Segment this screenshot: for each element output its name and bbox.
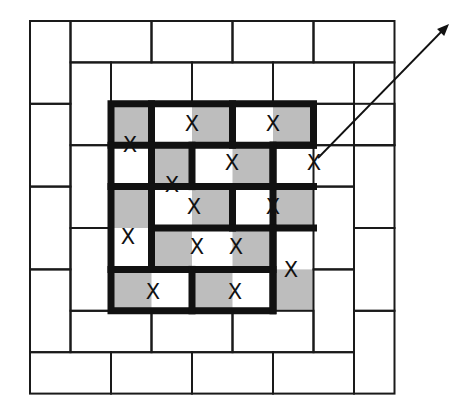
arrow-icon	[318, 24, 449, 158]
domino	[111, 62, 192, 103]
domino	[354, 311, 395, 394]
domino	[314, 269, 355, 352]
x-mark: X	[185, 112, 199, 136]
shaded-cell	[111, 187, 152, 228]
x-mark: X	[190, 235, 204, 259]
domino	[71, 21, 152, 62]
domino	[314, 187, 355, 270]
x-mark: X	[146, 280, 160, 304]
x-mark: X	[266, 195, 280, 219]
domino	[30, 104, 71, 187]
x-mark: X	[187, 195, 201, 219]
x-mark: X	[225, 151, 239, 175]
domino	[152, 311, 233, 352]
domino	[273, 352, 354, 393]
domino	[111, 352, 192, 393]
shaded-cell	[192, 269, 233, 310]
domino	[71, 62, 112, 145]
domino	[71, 311, 152, 352]
domino	[30, 269, 71, 352]
domino	[192, 352, 273, 393]
domino	[233, 311, 314, 352]
domino	[30, 187, 71, 270]
domino-diagram: XXXXXXXXXXXXXX	[0, 0, 469, 409]
x-mark: X	[165, 173, 179, 197]
x-mark: X	[284, 258, 298, 282]
domino	[354, 228, 395, 311]
x-mark: X	[307, 151, 321, 175]
domino	[30, 352, 111, 393]
arrow-line	[318, 30, 443, 158]
x-mark: X	[266, 112, 280, 136]
x-mark: X	[123, 133, 137, 157]
domino	[30, 21, 71, 104]
x-mark: X	[229, 235, 243, 259]
shaded-cell	[152, 228, 193, 269]
x-mark: X	[121, 225, 135, 249]
domino	[273, 62, 354, 103]
domino	[152, 21, 233, 62]
domino	[71, 228, 112, 311]
domino	[233, 21, 314, 62]
domino	[354, 145, 395, 228]
x-mark: X	[228, 280, 242, 304]
domino	[71, 145, 112, 228]
domino	[314, 21, 395, 62]
domino	[192, 62, 273, 103]
